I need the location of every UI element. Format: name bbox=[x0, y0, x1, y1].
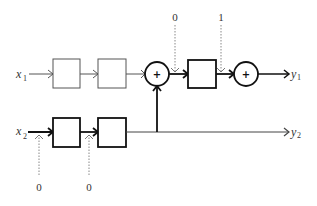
y2-subscript: 2 bbox=[297, 131, 301, 140]
control-label-bottom-0a: 0 bbox=[36, 181, 42, 193]
plus-icon: + bbox=[153, 69, 161, 80]
y1-symbol: y bbox=[290, 67, 297, 81]
adder-1: + bbox=[145, 62, 169, 86]
delay-box-1 bbox=[53, 59, 80, 88]
delay-box-4 bbox=[53, 118, 80, 147]
plus-icon: + bbox=[242, 69, 250, 80]
x2-subscript: 2 bbox=[23, 132, 27, 141]
x2-symbol: x bbox=[15, 124, 22, 138]
delay-box-2 bbox=[98, 59, 126, 88]
control-label-top-0: 0 bbox=[172, 11, 178, 23]
control-label-top-1: 1 bbox=[218, 11, 224, 23]
delay-box-5 bbox=[98, 118, 126, 147]
control-label-bottom-0b: 0 bbox=[86, 181, 92, 193]
delay-box-3 bbox=[188, 60, 216, 88]
y2-symbol: y bbox=[290, 125, 297, 139]
output-y1-label: y 1 bbox=[290, 67, 301, 82]
output-y2-label: y 2 bbox=[290, 125, 301, 140]
convolutional-encoder-diagram: x 1 + 0 1 + y 1 x 2 bbox=[0, 0, 317, 206]
x1-symbol: x bbox=[15, 67, 22, 81]
x1-subscript: 1 bbox=[23, 74, 27, 83]
input-x1-label: x 1 bbox=[15, 67, 27, 83]
input-x2-label: x 2 bbox=[15, 124, 27, 141]
y1-subscript: 1 bbox=[297, 73, 301, 82]
adder-2: + bbox=[234, 62, 258, 86]
